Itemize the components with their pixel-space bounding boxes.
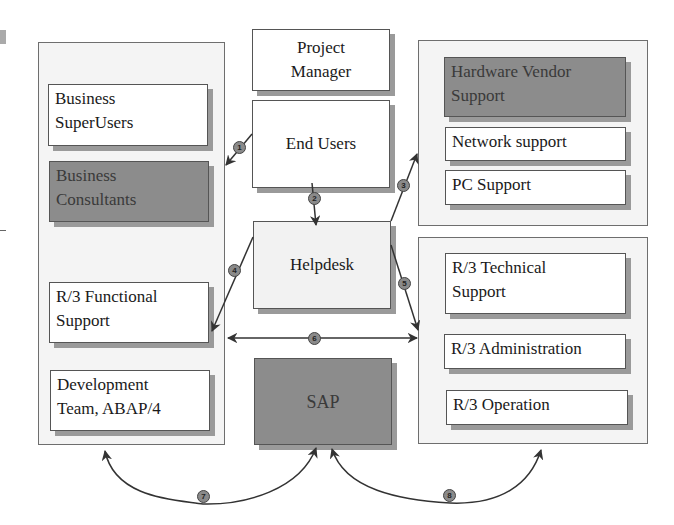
flow-badge-6: 6 [308, 332, 321, 345]
flow-badge-7: 7 [197, 490, 210, 503]
arrow-4 [212, 237, 253, 331]
flow-arrows [0, 0, 674, 525]
flow-badge-2: 2 [308, 192, 321, 205]
flow-badge-4: 4 [228, 264, 241, 277]
flow-badge-3: 3 [397, 179, 410, 192]
flow-badge-5: 5 [398, 277, 411, 290]
flow-badge-1: 1 [233, 141, 246, 154]
arrow-7 [105, 448, 316, 504]
flow-badge-8: 8 [443, 489, 456, 502]
arrow-8 [332, 449, 541, 503]
